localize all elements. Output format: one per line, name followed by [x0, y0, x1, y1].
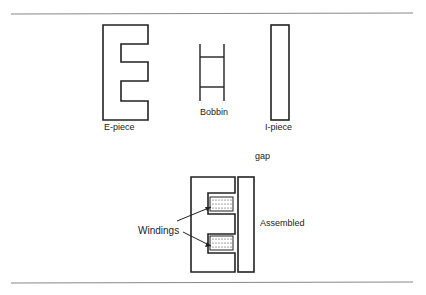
e-piece-shape	[103, 25, 148, 120]
bobbin-shape	[200, 44, 224, 101]
winding-upper	[210, 197, 233, 211]
windings-label: Windings	[138, 225, 179, 236]
bobbin-label: Bobbin	[200, 107, 228, 117]
gap-label: gap	[255, 151, 270, 161]
transformer-core-diagram	[0, 0, 426, 295]
i-piece-label: I-piece	[265, 122, 292, 132]
assembled-label: Assembled	[260, 218, 305, 228]
bottom-rule	[11, 282, 413, 283]
i-piece-shape	[271, 25, 289, 120]
e-piece-label: E-piece	[104, 122, 135, 132]
top-rule	[11, 13, 413, 14]
assembled-core	[177, 177, 254, 272]
windings-leader-upper	[177, 207, 211, 221]
assembled-e-piece	[191, 177, 235, 272]
winding-lower	[210, 236, 233, 250]
assembled-i-piece	[238, 177, 254, 272]
